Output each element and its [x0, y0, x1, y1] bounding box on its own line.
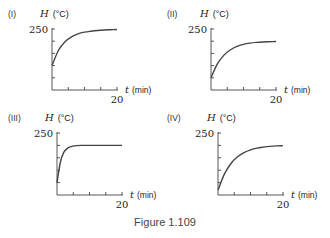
x-tick-label: 20	[111, 94, 124, 105]
y-tick-label: 250	[188, 24, 207, 35]
chart-panel-3: (III)H(°C)25020t(min)	[8, 112, 157, 210]
temperature-curve	[52, 29, 117, 65]
panel-label: (I)	[8, 9, 16, 19]
y-tick-label: 250	[29, 24, 48, 35]
temperature-curve	[218, 146, 283, 190]
panel-label: (III)	[8, 113, 21, 123]
x-axis-label: t(min)	[291, 189, 318, 200]
chart-panel-1: (I)H(°C)25020t(min)	[8, 8, 152, 105]
y-tick-label: 250	[34, 128, 53, 139]
x-tick-label: 20	[116, 199, 129, 210]
x-axis-label: t(min)	[130, 189, 157, 200]
figure-caption: Figure 1.109	[0, 216, 330, 228]
temperature-curve	[57, 145, 122, 182]
y-axis-label: H(°C)	[199, 8, 229, 19]
panel-label: (II)	[167, 9, 178, 19]
x-axis-label: t(min)	[125, 84, 152, 95]
figure-canvas: (I)H(°C)25020t(min)(II)H(°C)25020t(min)(…	[0, 0, 330, 238]
temperature-curve	[211, 41, 276, 77]
x-tick-label: 20	[277, 199, 290, 210]
panel-label: (IV)	[167, 113, 181, 123]
chart-panel-4: (IV)H(°C)25020t(min)	[167, 112, 318, 210]
x-tick-label: 20	[270, 94, 283, 105]
x-axis-label: t(min)	[284, 84, 311, 95]
y-tick-label: 250	[195, 128, 214, 139]
chart-panel-2: (II)H(°C)25020t(min)	[167, 8, 311, 105]
y-axis-label: H(°C)	[44, 112, 74, 123]
y-axis-label: H(°C)	[39, 8, 69, 19]
y-axis-label: H(°C)	[206, 112, 236, 123]
